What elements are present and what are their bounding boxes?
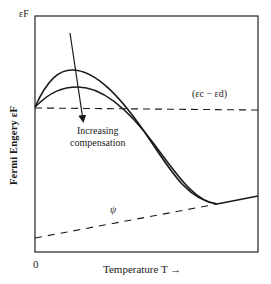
x-axis-origin-label: 0 — [33, 258, 39, 270]
psi-line — [35, 204, 217, 238]
fermi-energy-diagram: εF Fermi Engery εF 0 Temperature T → Inc… — [0, 0, 271, 284]
compensation-line-2: compensation — [70, 137, 126, 149]
x-axis-label: Temperature T → — [103, 263, 181, 275]
upper-curve — [35, 70, 217, 204]
gap-reference-line — [35, 108, 258, 110]
y-axis-label: Fermi Engery εF — [8, 91, 19, 201]
compensation-line-1: Increasing — [70, 125, 126, 137]
increasing-compensation-label: Increasing compensation — [70, 125, 126, 149]
high-temp-line — [217, 196, 258, 204]
diagram-canvas — [0, 0, 271, 284]
y-axis-top-tick: εF — [19, 8, 29, 19]
psi-label: ψ — [110, 204, 116, 215]
lower-curve — [35, 87, 217, 204]
increasing-compensation-arrow — [70, 33, 83, 120]
energy-gap-label: (εc − εd) — [192, 88, 227, 99]
